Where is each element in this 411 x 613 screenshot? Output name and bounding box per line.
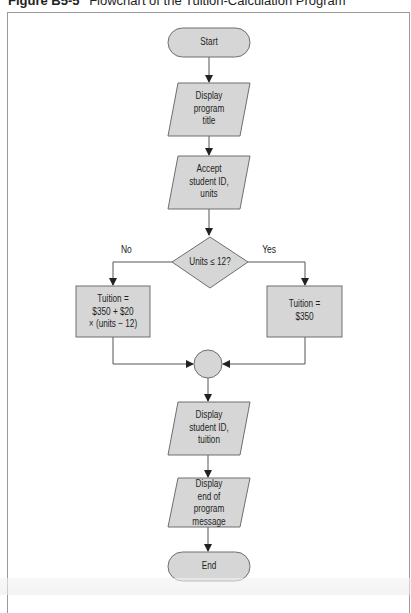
edge-decision-yes (248, 262, 305, 285)
edge-yes-connector (223, 337, 305, 364)
label-line: × (units − 12) (81, 318, 145, 331)
calc-yes-label: Tuition = $350 (274, 298, 336, 323)
label-line: message (175, 516, 242, 529)
end-label: End (175, 560, 242, 573)
label-line: Display (175, 478, 242, 491)
label-line: program (175, 103, 242, 116)
label-line: units (175, 188, 242, 201)
edge-no-connector (113, 337, 193, 364)
display-result-label: Display student ID, tuition (175, 409, 242, 447)
label-line: end of (175, 491, 242, 504)
label-line: Display (175, 409, 242, 422)
connector-circle (194, 350, 222, 378)
label-line: $350 + $20 (81, 306, 145, 319)
label-line: Display (175, 90, 242, 103)
label-line: title (175, 115, 242, 128)
label-line: Tuition = (81, 293, 145, 306)
page-bottom-edge (0, 578, 411, 595)
accept-input-label: Accept student ID, units (175, 163, 242, 201)
branch-yes-label: Yes (262, 244, 276, 255)
decision-label: Units ≤ 12? (179, 256, 241, 269)
label-line: $350 (274, 311, 336, 324)
branch-no-label: No (121, 244, 132, 255)
edge-decision-no (113, 262, 172, 285)
label-line: student ID, (175, 422, 242, 435)
label-line: tuition (175, 434, 242, 447)
label-line: Tuition = (274, 298, 336, 311)
display-end-label: Display end of program message (175, 478, 242, 528)
start-label: Start (175, 36, 242, 49)
display-title-label: Display program title (175, 90, 242, 128)
calc-no-label: Tuition = $350 + $20 × (units − 12) (81, 293, 145, 331)
label-line: Accept (175, 163, 242, 176)
label-line: student ID, (175, 176, 242, 189)
label-line: program (175, 503, 242, 516)
